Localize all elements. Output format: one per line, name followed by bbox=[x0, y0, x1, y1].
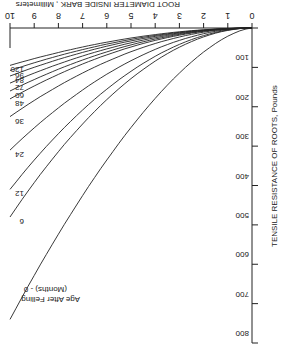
legend-subtitle: (Months) - 0 bbox=[23, 285, 67, 294]
chart-container: 012345678910100200300400500600700800ROOT… bbox=[0, 0, 295, 347]
x-tick-label: 9 bbox=[32, 11, 37, 21]
curve-label: 120 bbox=[10, 65, 24, 74]
x-tick-label: 2 bbox=[201, 11, 206, 21]
x-axis-label: ROOT DIAMETER INSIDE BARK , Millimeters bbox=[16, 0, 180, 9]
x-tick-label: 1 bbox=[225, 11, 230, 21]
x-tick-label: 0 bbox=[249, 11, 254, 21]
x-tick-label: 10 bbox=[5, 11, 15, 21]
curve-label: 48 bbox=[15, 99, 24, 108]
y-axis-label: TENSILE RESISTANCE OF ROOTS, Pounds bbox=[270, 85, 279, 247]
curve-12 bbox=[10, 28, 252, 189]
x-tick-label: 3 bbox=[177, 11, 182, 21]
tensile-chart: 012345678910100200300400500600700800ROOT… bbox=[0, 0, 295, 347]
y-tick-label: 600 bbox=[235, 250, 249, 259]
curve-label: 12 bbox=[15, 189, 24, 198]
x-tick-label: 7 bbox=[80, 11, 85, 21]
curve-label: 6 bbox=[19, 217, 24, 226]
y-tick-label: 800 bbox=[235, 329, 249, 338]
x-tick-label: 8 bbox=[56, 11, 61, 21]
x-tick-label: 5 bbox=[128, 11, 133, 21]
curve-96 bbox=[10, 28, 252, 71]
y-tick-label: 200 bbox=[235, 93, 249, 102]
x-tick-label: 6 bbox=[104, 11, 109, 21]
curve-24 bbox=[10, 28, 252, 150]
y-tick-label: 700 bbox=[235, 290, 249, 299]
legend-title: Age After Felling bbox=[21, 295, 80, 304]
y-tick-label: 100 bbox=[235, 53, 249, 62]
y-tick-label: 500 bbox=[235, 211, 249, 220]
y-tick-label: 400 bbox=[235, 172, 249, 181]
curve-label: 60 bbox=[15, 91, 24, 100]
x-tick-label: 4 bbox=[153, 11, 158, 21]
curve-6 bbox=[10, 28, 252, 217]
y-tick-label: 300 bbox=[235, 132, 249, 141]
curve-label: 36 bbox=[15, 117, 24, 126]
curve-label: 24 bbox=[15, 150, 24, 159]
